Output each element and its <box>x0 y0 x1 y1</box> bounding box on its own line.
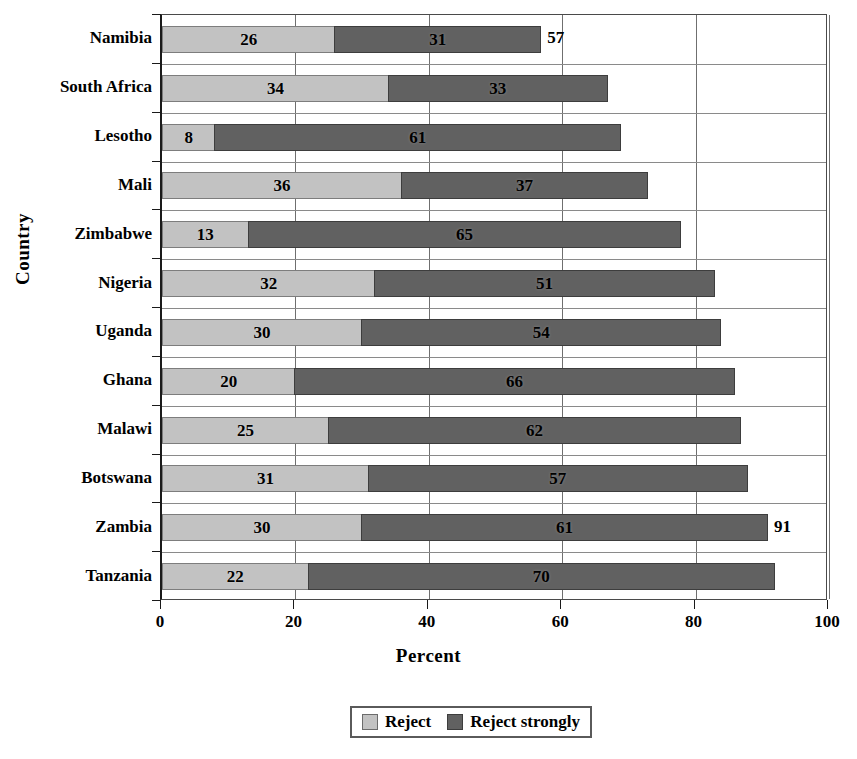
y-axis-tick <box>152 356 161 357</box>
y-axis-tick <box>152 258 161 259</box>
bar-total-label: 91 <box>774 517 791 537</box>
x-tick-label-60: 60 <box>530 612 590 632</box>
y-tick-label-uganda: Uganda <box>0 321 160 341</box>
row-separator <box>162 210 826 211</box>
y-tick-label-mali: Mali <box>0 175 160 195</box>
bar-segment-reject-strongly[interactable]: 51 <box>374 270 714 297</box>
bar-segment-reject-strongly[interactable]: 33 <box>388 75 608 102</box>
x-axis-title: Percent <box>0 645 857 667</box>
bar-segment-reject-strongly[interactable]: 37 <box>401 172 648 199</box>
bar-mali[interactable]: 3637 <box>162 172 649 199</box>
bar-value-reject: 8 <box>184 129 193 146</box>
bar-segment-reject-strongly[interactable]: 54 <box>361 319 721 346</box>
bar-segment-reject[interactable]: 36 <box>162 172 402 199</box>
y-axis-tick <box>152 161 161 162</box>
bar-value-reject-strongly: 54 <box>533 324 550 341</box>
bar-segment-reject[interactable]: 31 <box>162 465 369 492</box>
chart-legend: RejectReject strongly <box>350 706 592 738</box>
bar-value-reject-strongly: 70 <box>533 568 550 585</box>
x-axis-tick-60 <box>560 600 561 609</box>
bar-namibia[interactable]: 2631 <box>162 26 542 53</box>
bar-zimbabwe[interactable]: 1365 <box>162 221 682 248</box>
bar-value-reject-strongly: 51 <box>536 275 553 292</box>
x-axis-tick-80 <box>694 600 695 609</box>
bar-segment-reject[interactable]: 13 <box>162 221 249 248</box>
legend-item-reject[interactable]: Reject <box>362 712 431 732</box>
x-axis-tick-0 <box>160 600 161 609</box>
bar-value-reject: 13 <box>197 226 214 243</box>
y-tick-label-south-africa: South Africa <box>0 77 160 97</box>
bar-value-reject: 20 <box>220 373 237 390</box>
row-separator <box>162 357 826 358</box>
y-tick-label-malawi: Malawi <box>0 419 160 439</box>
row-separator <box>162 162 826 163</box>
bar-value-reject: 26 <box>240 31 257 48</box>
gridline-x-100 <box>829 15 830 599</box>
x-axis-tick-40 <box>427 600 428 609</box>
gridline-x-80 <box>696 15 697 599</box>
y-tick-label-zimbabwe: Zimbabwe <box>0 224 160 244</box>
bar-value-reject-strongly: 37 <box>516 177 533 194</box>
bar-malawi[interactable]: 2562 <box>162 417 742 444</box>
x-axis-tick-100 <box>827 600 828 609</box>
gridline-x-20 <box>295 15 296 599</box>
bar-value-reject: 22 <box>227 568 244 585</box>
bar-nigeria[interactable]: 3251 <box>162 270 716 297</box>
bar-segment-reject-strongly[interactable]: 62 <box>328 417 742 444</box>
x-axis-tick-20 <box>293 600 294 609</box>
legend-item-reject-strongly[interactable]: Reject strongly <box>447 712 580 732</box>
bar-segment-reject-strongly[interactable]: 57 <box>368 465 748 492</box>
bar-lesotho[interactable]: 861 <box>162 124 622 151</box>
row-separator <box>162 259 826 260</box>
bar-value-reject-strongly: 61 <box>556 519 573 536</box>
legend-label: Reject <box>385 712 431 732</box>
x-tick-label-100: 100 <box>797 612 857 632</box>
bar-segment-reject-strongly[interactable]: 65 <box>248 221 682 248</box>
bar-segment-reject-strongly[interactable]: 66 <box>294 368 734 395</box>
bar-segment-reject-strongly[interactable]: 70 <box>308 563 775 590</box>
bar-uganda[interactable]: 3054 <box>162 319 722 346</box>
y-axis-tick <box>152 307 161 308</box>
bar-segment-reject[interactable]: 30 <box>162 319 362 346</box>
bar-botswana[interactable]: 3157 <box>162 465 749 492</box>
bar-segment-reject[interactable]: 26 <box>162 26 335 53</box>
y-tick-label-namibia: Namibia <box>0 28 160 48</box>
bar-value-reject-strongly: 61 <box>409 129 426 146</box>
bar-segment-reject-strongly[interactable]: 31 <box>334 26 541 53</box>
y-tick-label-tanzania: Tanzania <box>0 566 160 586</box>
x-tick-label-0: 0 <box>130 612 190 632</box>
bar-total-label: 57 <box>547 28 564 48</box>
bar-segment-reject[interactable]: 22 <box>162 563 309 590</box>
gridline-x-60 <box>562 15 563 599</box>
light-gray-swatch-icon <box>362 714 378 730</box>
y-axis-tick <box>152 502 161 503</box>
bar-zambia[interactable]: 3061 <box>162 514 769 541</box>
bar-segment-reject[interactable]: 30 <box>162 514 362 541</box>
bar-segment-reject[interactable]: 25 <box>162 417 329 444</box>
y-axis-tick <box>152 14 161 15</box>
bar-tanzania[interactable]: 2270 <box>162 563 776 590</box>
bar-ghana[interactable]: 2066 <box>162 368 736 395</box>
y-axis-tick <box>152 112 161 113</box>
y-axis-tick <box>152 209 161 210</box>
row-separator <box>162 455 826 456</box>
y-tick-label-botswana: Botswana <box>0 468 160 488</box>
row-separator <box>162 552 826 553</box>
bar-segment-reject[interactable]: 32 <box>162 270 375 297</box>
x-tick-label-80: 80 <box>664 612 724 632</box>
bar-segment-reject[interactable]: 8 <box>162 124 215 151</box>
y-axis-tick <box>152 405 161 406</box>
bar-segment-reject[interactable]: 34 <box>162 75 389 102</box>
bar-south-africa[interactable]: 3433 <box>162 75 609 102</box>
bar-value-reject-strongly: 33 <box>489 80 506 97</box>
bar-value-reject: 25 <box>237 422 254 439</box>
y-axis-tick <box>152 551 161 552</box>
bar-segment-reject-strongly[interactable]: 61 <box>214 124 621 151</box>
bar-segment-reject[interactable]: 20 <box>162 368 295 395</box>
bar-segment-reject-strongly[interactable]: 61 <box>361 514 768 541</box>
bar-value-reject-strongly: 66 <box>506 373 523 390</box>
plot-area: 2631343386136371365325130542066256231573… <box>160 14 827 600</box>
y-tick-label-zambia: Zambia <box>0 517 160 537</box>
gridline-x-40 <box>429 15 430 599</box>
y-axis-title: Country <box>12 179 34 319</box>
